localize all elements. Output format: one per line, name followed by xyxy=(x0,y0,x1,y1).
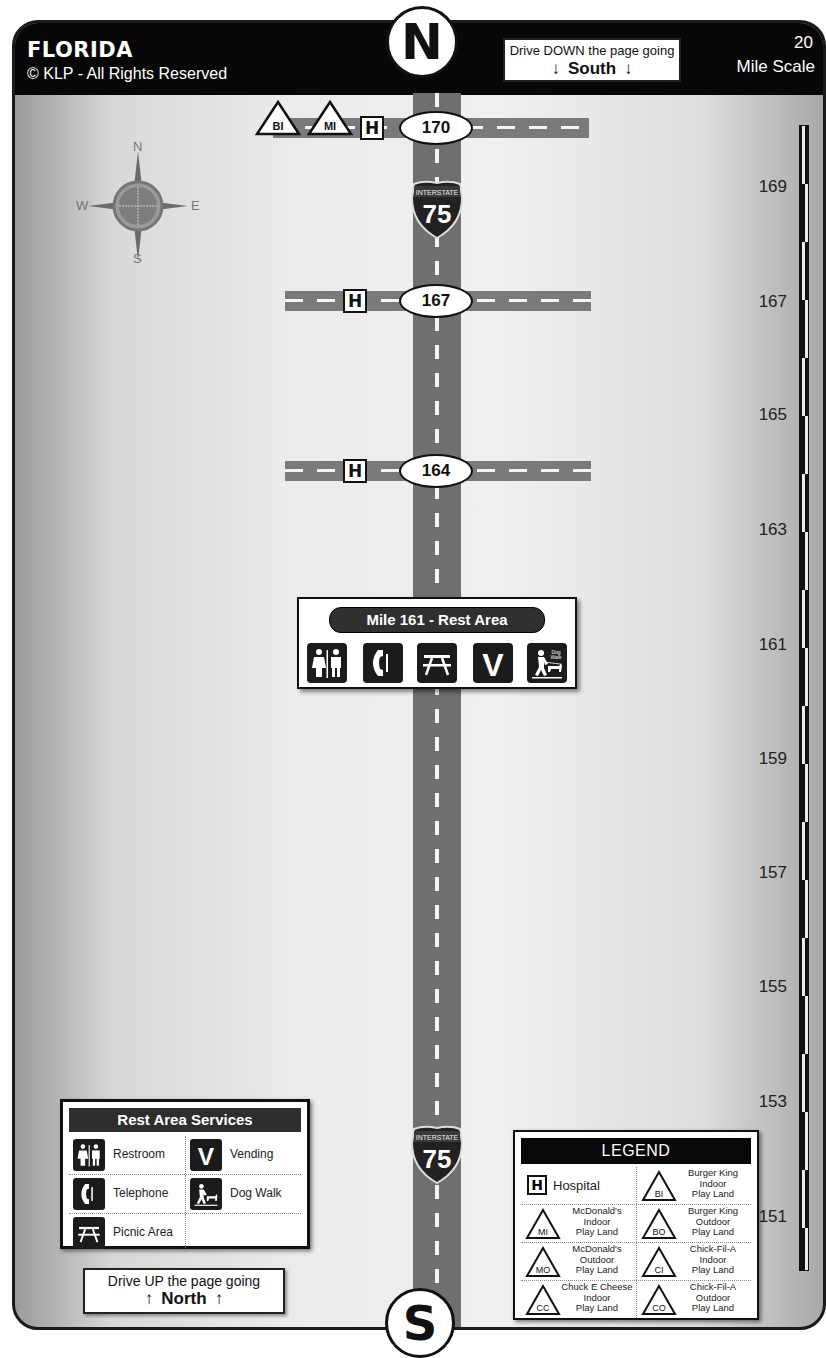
svg-text:CI: CI xyxy=(655,1265,664,1275)
mile-label-159: 159 xyxy=(759,749,787,769)
chick-fil-a-outdoor-icon: CO xyxy=(641,1284,677,1316)
mile-label-157: 157 xyxy=(759,863,787,883)
service-telephone: Telephone xyxy=(69,1175,185,1213)
scale-label: Mile Scale xyxy=(737,57,815,77)
direction-south: South xyxy=(568,59,616,78)
mile-label-167: 167 xyxy=(759,292,787,312)
legend-bi: BI Burger KingIndoorPlay Land xyxy=(636,1167,752,1204)
chuck-e-cheese-indoor-icon: CC xyxy=(525,1284,561,1316)
restroom-icon xyxy=(73,1139,105,1171)
hospital-icon: H xyxy=(527,1175,547,1195)
north-badge: N xyxy=(386,6,458,78)
interstate-75-shield-icon: INTERSTATE 75 xyxy=(410,1123,464,1185)
direction-north: North xyxy=(161,1289,206,1308)
mile-label-153: 153 xyxy=(759,1092,787,1112)
drive-up-text: Drive UP the page going xyxy=(85,1273,283,1289)
service-dog-walk: Dog Walk xyxy=(185,1175,302,1213)
service-empty xyxy=(185,1214,302,1252)
rest-area-sign: Mile 161 - Rest Area V DogWalk xyxy=(297,597,577,689)
picnic-area-icon xyxy=(73,1217,105,1249)
legend-mo: MO McDonald'sOutdoorPlay Land xyxy=(521,1243,636,1280)
burger-king-indoor-icon: BI xyxy=(255,100,301,136)
dog-walk-icon: DogWalk xyxy=(527,643,567,683)
mile-label-155: 155 xyxy=(759,977,787,997)
rest-area-services-box: Rest Area Services Restroom V Vending Te… xyxy=(60,1099,310,1249)
mcdonalds-indoor-icon: MI xyxy=(307,100,353,136)
service-picnic-area: Picnic Area xyxy=(69,1214,185,1252)
svg-text:CO: CO xyxy=(652,1303,666,1313)
legend-title: LEGEND xyxy=(521,1138,751,1164)
svg-text:INTERSTATE: INTERSTATE xyxy=(416,189,459,196)
copyright-text: © KLP - All Rights Reserved xyxy=(27,65,227,83)
compass-s: S xyxy=(133,251,142,266)
exit-167: 167 xyxy=(399,284,473,318)
arrow-up-icon: ↑ xyxy=(215,1289,224,1309)
mile-label-151: 151 xyxy=(759,1207,787,1227)
exit-164: 164 xyxy=(399,454,473,488)
legend-mi: MI McDonald'sIndoorPlay Land xyxy=(521,1205,636,1242)
compass-n: N xyxy=(133,139,142,154)
legend-co: CO Chick-Fil-AOutdoorPlay Land xyxy=(636,1281,752,1318)
legend-hospital: H Hospital xyxy=(521,1167,636,1204)
mile-label-161: 161 xyxy=(759,635,787,655)
service-vending: V Vending xyxy=(185,1136,302,1174)
legend-label: Hospital xyxy=(553,1178,600,1193)
restroom-icon xyxy=(307,643,347,683)
map-frame: FLORIDA © KLP - All Rights Reserved Driv… xyxy=(12,20,826,1330)
service-restroom: Restroom xyxy=(69,1136,185,1174)
mile-label-165: 165 xyxy=(759,405,787,425)
rest-area-services-title: Rest Area Services xyxy=(69,1108,301,1132)
burger-king-outdoor-icon: BO xyxy=(641,1208,677,1240)
service-label: Dog Walk xyxy=(230,1186,282,1200)
svg-text:MO: MO xyxy=(536,1265,551,1275)
svg-text:BI: BI xyxy=(655,1189,664,1199)
dog-walk-icon xyxy=(190,1178,222,1210)
drive-down-text: Drive DOWN the page going xyxy=(505,43,679,58)
svg-text:CC: CC xyxy=(537,1303,550,1313)
svg-text:V: V xyxy=(198,1143,215,1168)
svg-text:V: V xyxy=(482,647,504,680)
svg-text:INTERSTATE: INTERSTATE xyxy=(416,1134,459,1141)
arrow-up-icon: ↑ xyxy=(145,1289,154,1309)
picnic-area-icon xyxy=(417,643,457,683)
svg-text:Walk: Walk xyxy=(551,654,562,660)
mile-label-169: 169 xyxy=(759,177,787,197)
hospital-icon: H xyxy=(343,289,367,313)
legend-cc: CC Chuck E CheeseIndoorPlay Land xyxy=(521,1281,636,1318)
service-label: Picnic Area xyxy=(113,1225,173,1239)
mile-label-163: 163 xyxy=(759,520,787,540)
rest-area-title: Mile 161 - Rest Area xyxy=(329,607,545,633)
vending-icon: V xyxy=(190,1139,222,1171)
drive-up-sign: Drive UP the page going ↑North↑ xyxy=(83,1268,285,1314)
svg-text:MI: MI xyxy=(324,120,336,132)
compass-w: W xyxy=(76,198,88,213)
service-label: Telephone xyxy=(113,1186,168,1200)
scale-value: 20 xyxy=(794,33,813,53)
telephone-icon xyxy=(73,1178,105,1210)
telephone-icon xyxy=(363,643,403,683)
south-badge: S xyxy=(385,1288,455,1358)
compass-rose-icon: N E S W xyxy=(73,141,203,271)
legend-box: LEGEND H Hospital BI Burger KingIndoorPl… xyxy=(513,1130,759,1320)
svg-text:BI: BI xyxy=(273,120,284,132)
svg-text:75: 75 xyxy=(423,1144,452,1174)
mcdonalds-outdoor-icon: MO xyxy=(525,1246,561,1278)
burger-king-indoor-icon: BI xyxy=(641,1170,677,1202)
legend-ci: CI Chick-Fil-AIndoorPlay Land xyxy=(636,1243,752,1280)
svg-text:MI: MI xyxy=(538,1227,548,1237)
drive-down-sign: Drive DOWN the page going ↓South↓ xyxy=(503,38,681,82)
compass-e: E xyxy=(191,198,200,213)
legend-bo: BO Burger KingOutdoorPlay Land xyxy=(636,1205,752,1242)
vending-icon: V xyxy=(473,643,513,683)
arrow-down-icon: ↓ xyxy=(624,59,633,79)
svg-text:BO: BO xyxy=(652,1227,665,1237)
hospital-icon: H xyxy=(343,459,367,483)
hospital-icon: H xyxy=(360,116,384,140)
svg-text:75: 75 xyxy=(423,199,452,229)
mile-scale-bar xyxy=(799,125,809,1271)
service-label: Restroom xyxy=(113,1147,165,1161)
service-label: Vending xyxy=(230,1147,273,1161)
state-title: FLORIDA xyxy=(27,38,133,62)
arrow-down-icon: ↓ xyxy=(551,59,560,79)
mcdonalds-indoor-icon: MI xyxy=(525,1208,561,1240)
